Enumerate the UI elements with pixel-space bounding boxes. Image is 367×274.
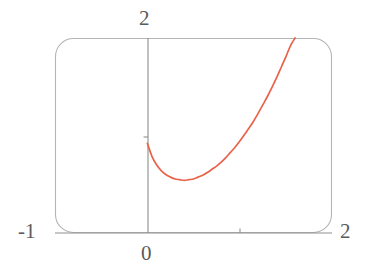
y-axis-max-label: 2	[139, 8, 150, 29]
plot-frame	[56, 39, 332, 233]
plot-figure: 2 0 -1 2	[0, 0, 367, 274]
x-axis-max-label: 2	[340, 221, 351, 242]
origin-label: 0	[141, 243, 152, 264]
x-axis-min-label: -1	[18, 221, 36, 242]
data-curve	[147, 38, 295, 180]
plot-canvas	[0, 0, 367, 274]
